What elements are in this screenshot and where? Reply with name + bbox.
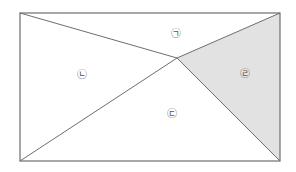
label-giyeok: ㉠ (171, 28, 181, 39)
segment-to-bottom-left (20, 58, 177, 161)
segment-to-top-left (20, 13, 177, 58)
label-rieul: ㉣ (240, 68, 250, 79)
rectangle-partition-diagram: ㉠ ㉡ ㉢ ㉣ (0, 0, 296, 172)
label-nieun: ㉡ (77, 69, 87, 80)
label-digeut: ㉢ (167, 108, 177, 119)
